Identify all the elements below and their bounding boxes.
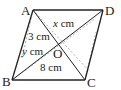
side-dc [85, 10, 103, 80]
center-label-o: O [53, 46, 62, 61]
vertex-label-a: A [21, 3, 31, 18]
parallelogram-diagram: A D B C O x cm 3 cm y cm 8 cm [0, 0, 121, 90]
measure-y: y cm [21, 45, 44, 57]
measure-ao: 3 cm [28, 30, 50, 42]
measure-bo: 8 cm [40, 61, 62, 73]
measure-x-unit: cm [58, 17, 75, 29]
vertex-label-b: B [2, 74, 11, 89]
measure-y-unit: cm [27, 45, 44, 57]
vertex-label-d: D [105, 3, 114, 18]
vertex-label-c: C [87, 75, 96, 90]
measure-x: x cm [52, 17, 75, 29]
